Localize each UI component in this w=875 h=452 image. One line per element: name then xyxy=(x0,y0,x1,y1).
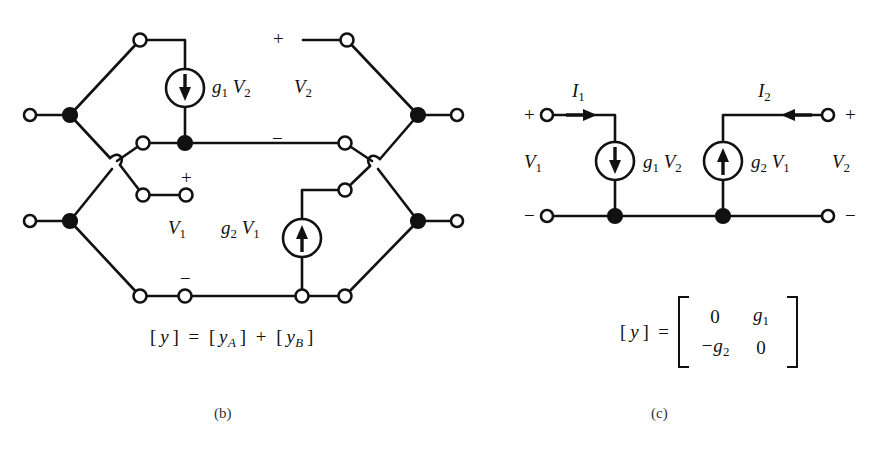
matrix-equation-y: [ y ] = 0 g1 −g2 0 xyxy=(620,296,798,368)
label-c-left-minus: − xyxy=(524,206,535,225)
terminal-b-in-bottom[interactable] xyxy=(24,215,36,227)
junction-b-left-top xyxy=(63,108,77,122)
terminal-b-out-top[interactable] xyxy=(451,109,463,121)
junction-c-right-bottom xyxy=(716,209,730,223)
terminal-c-in-top[interactable] xyxy=(541,109,553,121)
label-source-g1v2-b: g1 V2 xyxy=(212,77,251,100)
label-c-left-plus: + xyxy=(524,105,535,124)
matrix-cell-r1c1: 0 xyxy=(756,337,766,359)
circuit-diagram-svg xyxy=(0,0,875,452)
terminal-b-netB-top-left[interactable] xyxy=(137,189,150,202)
caption-panel-c: (c) xyxy=(651,406,668,421)
label-current-i1: I1 xyxy=(572,81,585,104)
label-c-right-minus: − xyxy=(845,206,856,225)
wire-b-right-cross-upper-seg xyxy=(380,115,418,159)
matrix-brackets: 0 g1 −g2 0 xyxy=(678,296,798,368)
current-arrow-i2-head xyxy=(781,109,795,121)
label-c-right-plus: + xyxy=(845,105,856,124)
wire-b-right-under-lower xyxy=(378,169,418,221)
wire-b-upright-diag xyxy=(347,40,418,115)
terminal-b-netB-bottom-minus[interactable] xyxy=(179,290,192,303)
terminal-b-netA-mid-right[interactable] xyxy=(339,137,352,150)
terminal-b-in-top[interactable] xyxy=(24,109,36,121)
terminal-b-netA-top-right[interactable] xyxy=(341,34,354,47)
terminal-b-netA-top-left[interactable] xyxy=(134,34,147,47)
label-source-g2v1-b: g2 V1 xyxy=(221,218,260,241)
terminal-b-source-bottom-return[interactable] xyxy=(296,290,309,303)
figure-root: g1 V2 V2 + − + − V1 g2 V1 [ y ] = [ yA ]… xyxy=(0,0,875,452)
equation-y-sum: [ y ] = [ yA ] + [ yB ] xyxy=(150,327,313,350)
matrix-bracket-left xyxy=(678,296,689,368)
terminal-c-in-bottom[interactable] xyxy=(541,210,553,222)
terminal-c-out-bottom[interactable] xyxy=(822,210,834,222)
wire-b-upleft-diag xyxy=(70,40,140,115)
wire-c-right-top xyxy=(723,115,822,142)
label-port-v1-c: V1 xyxy=(524,152,542,175)
junction-c-left-bottom xyxy=(608,209,622,223)
label-v2-minus-b: − xyxy=(272,129,283,148)
label-source-g1v2-c: g1 V2 xyxy=(643,152,682,175)
panel-c-wires xyxy=(541,109,834,223)
label-source-g2v1-c: g2 V1 xyxy=(751,152,790,175)
terminal-b-out-bottom[interactable] xyxy=(451,215,463,227)
matrix-cell-r0c1: g1 xyxy=(753,304,769,329)
terminal-b-netB-bottom-right[interactable] xyxy=(339,290,352,303)
wire-b-downright-diag xyxy=(345,221,418,296)
wire-b-top-to-source xyxy=(140,40,185,69)
junction-b-source-top-return xyxy=(178,136,192,150)
junction-b-left-bottom xyxy=(63,214,77,228)
matrix-lhs: [ y ] = xyxy=(620,321,669,343)
junction-b-right-top xyxy=(411,108,425,122)
caption-panel-b: (b) xyxy=(214,406,232,421)
matrix-grid: 0 g1 −g2 0 xyxy=(689,296,787,368)
label-v1-plus-b: + xyxy=(181,168,192,187)
label-port-v1-b: V1 xyxy=(168,218,186,241)
matrix-cell-r0c0: 0 xyxy=(710,306,720,328)
terminal-b-netB-top-right[interactable] xyxy=(339,184,352,197)
terminal-c-out-top[interactable] xyxy=(822,109,834,121)
label-v1-minus-b: − xyxy=(180,269,191,288)
junction-b-right-bottom xyxy=(411,214,425,228)
panel-b-wires xyxy=(24,34,463,303)
wire-b-left-cross-upper-seg xyxy=(70,115,110,158)
label-port-v2-c: V2 xyxy=(832,152,850,175)
wire-b-left-under-lower xyxy=(70,169,112,221)
label-port-v2-b: V2 xyxy=(294,77,312,100)
terminal-b-netB-plus[interactable] xyxy=(180,189,193,202)
terminal-b-netB-bottom-left[interactable] xyxy=(134,290,147,303)
terminal-b-netA-mid-left[interactable] xyxy=(137,137,150,150)
matrix-cell-r1c0: −g2 xyxy=(701,335,730,360)
current-arrow-i1-head xyxy=(583,109,597,121)
label-v2-plus-b: + xyxy=(273,29,284,48)
matrix-bracket-right xyxy=(787,296,798,368)
label-current-i2: I2 xyxy=(758,81,771,104)
wire-b-downleft-diag xyxy=(70,221,140,296)
